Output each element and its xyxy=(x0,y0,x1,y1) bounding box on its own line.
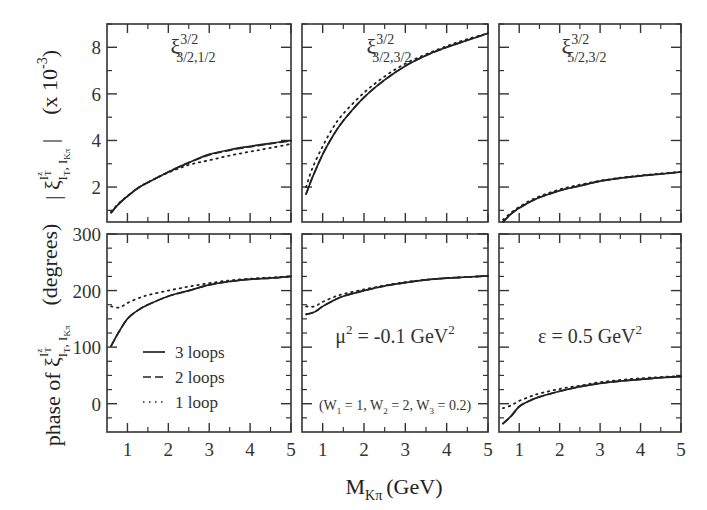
y-tick-label: 8 xyxy=(92,37,102,58)
panel-r0-c1: ξ3/23/2,3/2 xyxy=(302,24,488,222)
panel-r1-c2: 12345ε = 0.5 GeV2 xyxy=(499,234,686,460)
x-tick-label: 5 xyxy=(483,439,493,460)
x-tick-label: 2 xyxy=(164,439,174,460)
y-tick-label: 300 xyxy=(73,224,102,245)
x-tick-label: 3 xyxy=(401,439,411,460)
panel-r0-c2: ξ3/25/2,3/2 xyxy=(499,24,681,222)
panel-r1-c1: 12345μ2 = -0.1 GeV2(W1 = 1, W2 = 2, W3 =… xyxy=(302,234,493,460)
x-tick-label: 2 xyxy=(359,439,369,460)
x-tick-label: 1 xyxy=(123,439,133,460)
x-axis-title: MKπ(GeV) xyxy=(346,474,443,503)
x-tick-label: 1 xyxy=(318,439,328,460)
y-tick-label: 6 xyxy=(92,84,102,105)
legend-label: 1 loop xyxy=(175,393,218,412)
x-tick-label: 2 xyxy=(555,439,565,460)
x-tick-label: 3 xyxy=(595,439,605,460)
figure: 2468ξ3/23/2,1/2ξ3/23/2,3/2ξ3/25/2,3/2123… xyxy=(0,0,707,510)
y-tick-label: 4 xyxy=(92,130,102,151)
x-tick-label: 3 xyxy=(204,439,214,460)
panel-r1-c0: 1234501002003003 loops2 loops1 loop xyxy=(73,224,296,460)
x-tick-label: 5 xyxy=(286,439,296,460)
y-tick-label: 200 xyxy=(73,281,102,302)
x-tick-label: 4 xyxy=(442,439,452,460)
x-tick-label: 5 xyxy=(676,439,686,460)
legend-label: 2 loops xyxy=(175,368,225,387)
svg-text:| ξIzTIT, IKπ |(x 10-3): | ξIzTIT, IKπ |(x 10-3) xyxy=(34,50,72,200)
y-tick-label: 100 xyxy=(73,337,102,358)
y-axis-title-phase: phase of ξIzTIT, IKπ(degrees) xyxy=(34,224,72,447)
ylabel-mag-prefix: | ξ xyxy=(40,180,65,200)
panel-annotation: ε = 0.5 GeV2 xyxy=(538,322,642,347)
x-tick-label: 4 xyxy=(636,439,646,460)
y-tick-label: 0 xyxy=(92,394,102,415)
y-axis-title-magnitude: | ξIzTIT, IKπ |(x 10-3) xyxy=(34,50,72,200)
legend-label: 3 loops xyxy=(175,343,225,362)
panel-r0-c0: 2468ξ3/23/2,1/2 xyxy=(92,24,292,222)
panels-group: 2468ξ3/23/2,1/2ξ3/23/2,3/2ξ3/25/2,3/2123… xyxy=(73,24,686,460)
panel-annotation: μ2 = -0.1 GeV2 xyxy=(335,322,454,348)
x-tick-label: 1 xyxy=(514,439,524,460)
y-tick-label: 2 xyxy=(92,177,102,198)
svg-text:phase of ξIzTIT, IKπ(degrees): phase of ξIzTIT, IKπ(degrees) xyxy=(34,224,72,447)
x-tick-label: 4 xyxy=(245,439,255,460)
